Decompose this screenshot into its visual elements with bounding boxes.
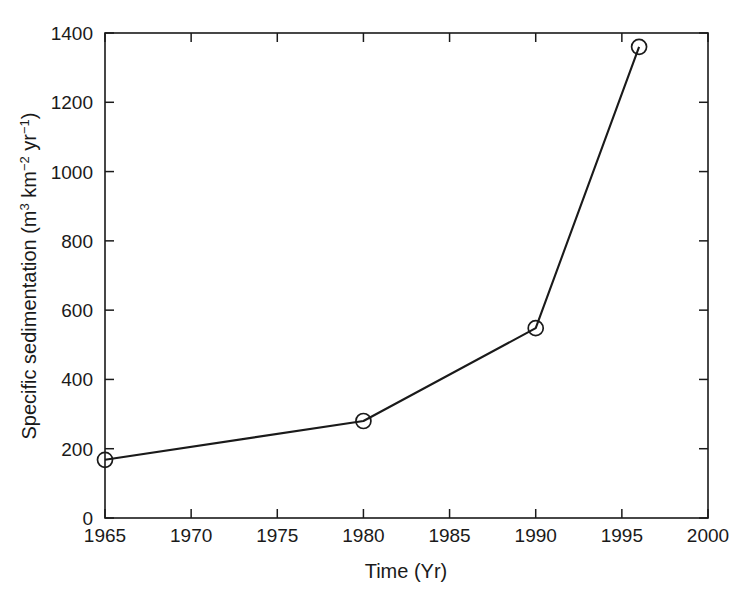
y-tick-label: 1000 — [51, 162, 93, 183]
chart-figure: 19651970197519801985199019952000 0200400… — [0, 0, 746, 599]
y-tick-label: 200 — [61, 439, 93, 460]
x-axis-title: Time (Yr) — [365, 560, 448, 582]
x-tick-label: 2000 — [687, 525, 729, 546]
y-tick-label: 600 — [61, 300, 93, 321]
y-axis-tick-labels: 0200400600800100012001400 — [51, 23, 93, 529]
y-axis-title-sup-1: 3 — [17, 203, 32, 210]
line-chart: 19651970197519801985199019952000 0200400… — [0, 0, 746, 599]
y-axis-title: Specific sedimentation (m3 km−2 yr−1) — [17, 113, 40, 440]
x-tick-label: 1985 — [428, 525, 470, 546]
y-tick-label: 1200 — [51, 92, 93, 113]
x-tick-label: 1980 — [342, 525, 384, 546]
y-axis-title-mid-1: km — [18, 171, 40, 203]
y-axis-title-sup-2: −2 — [17, 156, 32, 171]
x-tick-label: 1995 — [601, 525, 643, 546]
y-tick-label: 800 — [61, 231, 93, 252]
y-axis-title-suffix: ) — [18, 113, 40, 120]
x-axis-tick-labels: 19651970197519801985199019952000 — [84, 525, 729, 546]
x-tick-label: 1970 — [170, 525, 212, 546]
y-tick-label: 1400 — [51, 23, 93, 44]
x-tick-label: 1975 — [256, 525, 298, 546]
y-axis-title-prefix: Specific sedimentation (m — [18, 211, 40, 440]
x-tick-label: 1990 — [515, 525, 557, 546]
y-tick-label: 400 — [61, 369, 93, 390]
y-tick-label: 0 — [82, 508, 93, 529]
data-series-line — [105, 47, 639, 460]
y-axis-title-sup-3: −1 — [17, 119, 32, 134]
y-axis-title-mid-2: yr — [18, 134, 40, 157]
